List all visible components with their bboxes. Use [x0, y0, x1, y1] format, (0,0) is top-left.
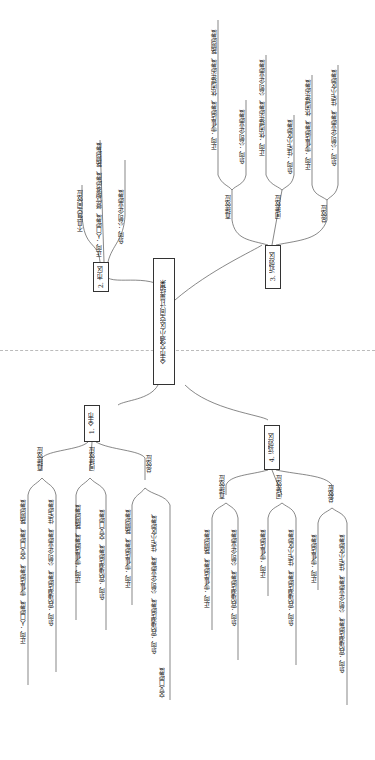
far-indirect-negative: 负向：宾馆酒店密度、住宅小区密度	[287, 530, 294, 626]
city-direct-positive: 正向：人口密度、零售店密度、交叉口密度、路网密度	[19, 500, 26, 644]
near-direct-label: 直接效应	[224, 195, 231, 219]
branch-city-center[interactable]: 2. 市区	[93, 262, 109, 292]
near-total-positive: 正向：零售店密度、休闲娱乐密度	[304, 80, 311, 170]
city-indirect-label: 间接效应	[88, 447, 95, 471]
city-total-positive: 正向：零售店密度、路网密度	[124, 510, 131, 588]
dashed-divider	[0, 350, 375, 351]
far-indirect-label: 间接效应	[275, 475, 282, 499]
near-total-negative: 负向：公司企业密度、住宅小区密度	[330, 70, 337, 166]
city-total-negative: 负向：宾馆酒店密度、公司企业密度、住宅小区密度、	[150, 510, 157, 654]
near-total-label: 总效应	[320, 205, 327, 223]
branch-far-suburb[interactable]: 4. 远郊区	[264, 425, 280, 470]
far-total-label: 总效应	[327, 485, 334, 503]
near-indirect-label: 间接效应	[274, 195, 281, 219]
city-center-positive: 正向：人口密度、餐饮服务密度、路网密度	[95, 143, 102, 257]
root-label: 全市交通小区空间计量结果	[159, 280, 169, 364]
far-direct-negative: 负向：宾馆酒店密度、公司企业密度	[230, 530, 237, 626]
city-indirect-negative: 负向：宾馆酒店密度、交叉口密度	[98, 510, 105, 600]
branch-whole-city[interactable]: 1. 全市	[84, 405, 100, 442]
far-direct-positive: 正向：零售店密度、路网密度	[203, 530, 210, 608]
connector-lines	[0, 0, 375, 760]
city-total-negative-cont: 交叉口密度	[158, 668, 165, 698]
city-center-negative: 负向：公司企业密度	[117, 190, 124, 244]
near-direct-positive: 正向：零售店密度、休闲娱乐密度、路网密度	[210, 30, 217, 150]
far-total-negative: 负向：宾馆酒店密度、公司企业密度、住宅小区密度	[338, 535, 345, 673]
branch-near-suburb[interactable]: 3. 近郊区	[265, 245, 281, 289]
near-direct-negative: 负向：公司企业密度	[238, 110, 245, 164]
mind-map-canvas: 全市交通小区空间计量结果 2. 市区 不具有空间效应 正向：人口密度、餐饮服务密…	[0, 0, 375, 760]
city-total-label: 总效应	[145, 455, 152, 473]
far-indirect-positive: 正向：零售店密度	[259, 530, 266, 578]
city-direct-label: 直接效应	[36, 447, 43, 471]
city-center-no-effect: 不具有空间效应	[76, 190, 83, 232]
root-node[interactable]: 全市交通小区空间计量结果	[153, 258, 175, 385]
near-indirect-negative: 负向：住宅小区密度	[286, 120, 293, 174]
city-indirect-positive: 正向：零售店密度、路网密度	[74, 505, 81, 583]
near-indirect-positive: 正向：休闲娱乐密度、公司企业密度	[258, 60, 265, 156]
far-total-positive: 正向：零售店密度	[310, 535, 317, 583]
far-direct-label: 直接效应	[218, 475, 225, 499]
city-direct-negative: 负向：宾馆酒店密度、公司企业密度、住宅密度	[47, 500, 54, 626]
